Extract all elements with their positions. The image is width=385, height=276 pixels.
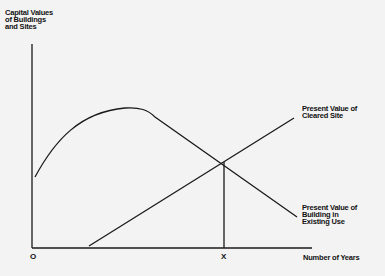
chart-canvas [0, 0, 385, 276]
building-value-label: Present Value of Building in Existing Us… [302, 204, 357, 225]
x-tick-label: X [221, 253, 226, 260]
building-value-curve [35, 108, 297, 217]
x-axis-label: Number of Years [303, 254, 359, 261]
origin-tick-label: O [30, 253, 36, 260]
cleared-site-label: Present Value of Cleared Site [302, 105, 357, 119]
cleared-site-line [89, 118, 294, 246]
y-axis-label: Capital Values of Buildings and Sites [5, 9, 53, 30]
